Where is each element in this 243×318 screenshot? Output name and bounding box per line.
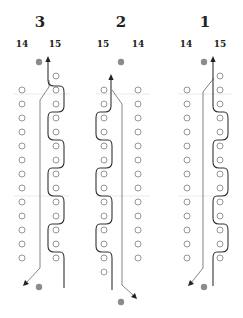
panel-number: 3 — [35, 13, 45, 31]
panel-3: 31415 — [16, 13, 64, 290]
hole — [217, 199, 223, 205]
hole — [184, 115, 190, 121]
panel-number: 1 — [200, 13, 210, 31]
hole — [101, 199, 107, 205]
hole — [19, 241, 25, 247]
hole — [135, 171, 141, 177]
hole — [217, 143, 223, 149]
hole — [53, 213, 59, 219]
hole — [53, 199, 59, 205]
hole — [19, 115, 25, 121]
hole — [101, 269, 107, 275]
thread-path-thin — [191, 78, 214, 283]
hole — [135, 157, 141, 163]
arrow-head-icon — [45, 56, 50, 62]
hole — [19, 157, 25, 163]
hole — [53, 185, 59, 191]
hole — [101, 213, 107, 219]
end-dot — [118, 299, 124, 305]
hole — [184, 143, 190, 149]
hole — [53, 129, 59, 135]
hole — [19, 227, 25, 233]
hole — [184, 171, 190, 177]
panel-2: 21514 — [96, 13, 144, 305]
hole — [53, 115, 59, 121]
end-dot — [201, 284, 207, 290]
hole — [19, 185, 25, 191]
hole — [53, 241, 59, 247]
hole — [217, 241, 223, 247]
hole — [53, 87, 59, 93]
hole — [135, 129, 141, 135]
panel-number: 2 — [116, 13, 126, 31]
column-label: 15 — [97, 39, 110, 49]
arrow-head-icon — [108, 74, 113, 80]
hole — [101, 255, 107, 261]
hole — [19, 255, 25, 261]
hole — [101, 185, 107, 191]
hole — [135, 227, 141, 233]
hole — [19, 143, 25, 149]
hole — [184, 87, 190, 93]
hole — [217, 227, 223, 233]
hole — [184, 185, 190, 191]
hole — [217, 171, 223, 177]
hole — [101, 157, 107, 163]
hole — [184, 101, 190, 107]
hole — [101, 227, 107, 233]
hole — [53, 227, 59, 233]
hole — [217, 101, 223, 107]
column-label: 15 — [49, 39, 62, 49]
panels: 314152151411415 — [16, 13, 228, 305]
hole — [184, 213, 190, 219]
hole — [135, 101, 141, 107]
thread-path-thin — [112, 90, 134, 296]
hole — [135, 213, 141, 219]
hole — [53, 171, 59, 177]
hole — [184, 241, 190, 247]
column-label: 14 — [132, 39, 145, 49]
start-dot — [201, 59, 207, 65]
end-dot — [36, 284, 42, 290]
hole — [101, 143, 107, 149]
hole — [101, 101, 107, 107]
hole — [53, 255, 59, 261]
guide-lines — [14, 94, 232, 196]
hole — [101, 241, 107, 247]
hole — [184, 227, 190, 233]
hole — [217, 255, 223, 261]
hole — [184, 157, 190, 163]
hole — [135, 185, 141, 191]
column-label: 15 — [214, 39, 227, 49]
arrow-head-icon — [210, 56, 215, 62]
hole — [135, 115, 141, 121]
hole — [101, 171, 107, 177]
hole — [53, 101, 59, 107]
start-dot — [118, 59, 124, 65]
hole — [101, 129, 107, 135]
start-dot — [36, 59, 42, 65]
hole — [217, 73, 223, 79]
hole — [19, 101, 25, 107]
hole — [217, 157, 223, 163]
hole — [135, 143, 141, 149]
hole — [184, 129, 190, 135]
hole — [53, 73, 59, 79]
panel-1: 11415 — [180, 13, 228, 290]
hole — [217, 185, 223, 191]
hole — [135, 199, 141, 205]
thread-path-thin — [26, 80, 49, 283]
hole — [135, 241, 141, 247]
hole — [135, 87, 141, 93]
hole — [101, 115, 107, 121]
hole — [19, 171, 25, 177]
hole — [19, 213, 25, 219]
hole — [53, 143, 59, 149]
column-label: 14 — [180, 39, 193, 49]
hole — [217, 129, 223, 135]
hole — [184, 255, 190, 261]
hole — [184, 199, 190, 205]
hole — [19, 129, 25, 135]
hole — [53, 157, 59, 163]
hole — [19, 199, 25, 205]
